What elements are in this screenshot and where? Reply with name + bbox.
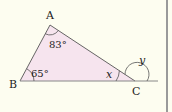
angle-label-a: 83°	[49, 39, 67, 50]
angle-label-b: 65°	[31, 68, 49, 79]
triangle-diagram: A B C 83° 65° x y	[0, 0, 172, 112]
angle-label-x: x	[106, 68, 113, 81]
angle-label-y: y	[138, 54, 146, 67]
frame-border-right	[166, 0, 168, 112]
geometry-figure: A B C 83° 65° x y	[0, 0, 172, 112]
vertex-label-c: C	[132, 85, 140, 98]
vertex-label-a: A	[45, 9, 55, 22]
vertex-label-b: B	[9, 78, 17, 91]
